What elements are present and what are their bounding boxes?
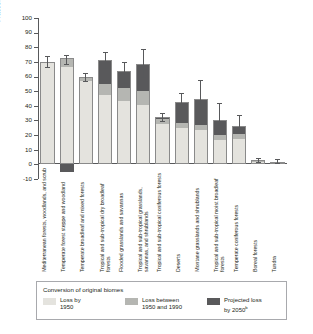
x-axis-label: Boreal forests xyxy=(253,240,266,272)
bar-group xyxy=(194,18,208,179)
y-tick-label: 80 xyxy=(4,44,32,50)
error-bar-cap xyxy=(141,49,146,50)
x-axis-label: Tropical and sub-tropical grasslands, sa… xyxy=(138,168,151,272)
bar-segment xyxy=(213,135,227,140)
error-bar-cap xyxy=(45,67,50,68)
error-bar-cap xyxy=(237,131,242,132)
x-axis-label: Temperate forest steppe and woodland xyxy=(61,182,74,272)
y-tick-label: 10 xyxy=(4,147,32,153)
bar-group xyxy=(136,18,150,179)
bar-group xyxy=(98,18,112,179)
error-bar xyxy=(143,49,144,76)
bar-segment xyxy=(117,101,131,164)
x-axis-label: Tropical and sub-tropical dry broadleaf … xyxy=(100,168,113,272)
error-bar-cap xyxy=(83,81,88,82)
error-bar-cap xyxy=(256,162,261,163)
bar-segment xyxy=(194,125,208,130)
error-bar xyxy=(162,113,163,121)
bar-group xyxy=(213,18,227,179)
x-axis-label: Deserts xyxy=(176,254,189,272)
y-tick-label: 70 xyxy=(4,59,32,65)
error-bar-cap xyxy=(275,159,280,160)
x-axis-label: Tundra xyxy=(272,256,285,272)
error-bar-cap xyxy=(64,64,69,65)
bar-segment xyxy=(232,139,246,164)
legend-swatch xyxy=(43,298,56,305)
x-axis-label: Temperate broadleaf and mixed forests xyxy=(80,182,93,272)
error-bar-cap xyxy=(160,113,165,114)
error-bar-cap xyxy=(83,73,88,74)
x-axis-labels: Mediterranean forests, woodlands, and sc… xyxy=(38,167,287,272)
legend-label: Loss by1950 xyxy=(60,297,118,311)
error-bar xyxy=(66,55,67,64)
x-axis-label: Mediterranean forests, woodlands, and sc… xyxy=(42,168,55,272)
y-axis-title: Fraction of potential area converted xyxy=(0,0,1,22)
bar-group xyxy=(117,18,131,179)
error-bar xyxy=(105,52,106,68)
x-axis-label: Montane grasslands and shrublands xyxy=(195,188,208,272)
error-bar-cap xyxy=(217,103,222,104)
y-tick-label: 30 xyxy=(4,117,32,123)
legend-swatch xyxy=(207,298,220,305)
bar-segment xyxy=(232,134,246,140)
bar-segment xyxy=(175,123,189,127)
error-bar-cap xyxy=(179,107,184,108)
bar-group xyxy=(60,18,74,179)
bar-segment xyxy=(60,67,74,164)
error-bar-cap xyxy=(64,55,69,56)
error-bar-cap xyxy=(141,77,146,78)
bar-segment xyxy=(117,88,131,101)
error-bar-cap xyxy=(237,115,242,116)
error-bar xyxy=(219,103,220,125)
error-bar-cap xyxy=(122,62,127,63)
error-bar-cap xyxy=(160,121,165,122)
bar-group xyxy=(155,18,169,179)
error-bar-cap xyxy=(45,56,50,57)
chart-figure: Fraction of potential area converted -10… xyxy=(0,0,313,334)
legend-label: Projected lossby 2050b xyxy=(224,297,282,314)
bar-segment xyxy=(60,164,74,171)
y-tick-label: 50 xyxy=(4,88,32,94)
y-tick-label: 90 xyxy=(4,29,32,35)
error-bar xyxy=(85,73,86,81)
x-axis-label: Tropical and sub-tropical coniferous for… xyxy=(157,173,170,272)
bar-segment xyxy=(79,81,93,164)
error-bar xyxy=(200,80,201,103)
y-tick-label: -10 xyxy=(4,176,32,182)
bar-segment xyxy=(40,63,54,165)
bar-segment xyxy=(155,124,169,164)
x-axis-label: Flooded grasslands and savannas xyxy=(119,193,132,272)
bar-segment xyxy=(194,130,208,164)
error-bar-cap xyxy=(103,68,108,69)
x-axis-label: Temperate coniferous forests xyxy=(234,205,247,272)
x-axis-label: Tropical and sub-tropical moist broadlea… xyxy=(214,168,227,272)
y-tick-label: 60 xyxy=(4,73,32,79)
bar-group xyxy=(40,18,54,179)
error-bar-cap xyxy=(256,158,261,159)
bar-segment xyxy=(98,84,112,95)
error-bar xyxy=(239,115,240,131)
y-tick-label: 20 xyxy=(4,132,32,138)
y-tick-label: 40 xyxy=(4,103,32,109)
bar-group xyxy=(79,18,93,179)
bar-group xyxy=(232,18,246,179)
error-bar-cap xyxy=(122,83,127,84)
error-bar-cap xyxy=(198,104,203,105)
bar-segment xyxy=(136,105,150,164)
legend: Conversion of original biomes Loss by195… xyxy=(36,281,287,320)
error-bar xyxy=(47,56,48,67)
legend-title: Conversion of original biomes xyxy=(43,286,123,293)
bar-segment xyxy=(98,95,112,165)
bar-group xyxy=(251,18,265,179)
error-bar xyxy=(181,93,182,108)
bar-segment xyxy=(175,128,189,165)
bar-segment xyxy=(136,91,150,105)
bar-group xyxy=(175,18,189,179)
error-bar-cap xyxy=(198,80,203,81)
y-tick-label: 100 xyxy=(4,15,32,21)
error-bar-cap xyxy=(103,52,108,53)
legend-label: Loss between1950 and 1990 xyxy=(142,297,200,311)
error-bar-cap xyxy=(217,125,222,126)
y-tick-label: 0 xyxy=(4,161,32,167)
error-bar-cap xyxy=(179,93,184,94)
